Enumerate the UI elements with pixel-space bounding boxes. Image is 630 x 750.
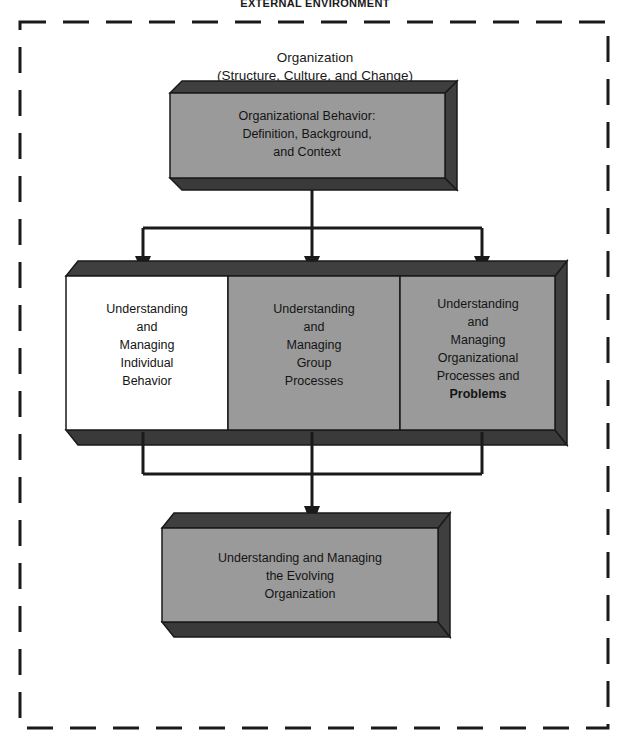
- middle-block-2-line-3: Managing: [287, 338, 342, 352]
- block-organizational-behavior: Organizational Behavior: Definition, Bac…: [170, 81, 457, 190]
- bottom-block-bottom-shadow: [162, 622, 450, 637]
- top-block-line-2: Definition, Background,: [242, 127, 371, 141]
- top-block-side-shadow: [445, 81, 457, 190]
- middle-block-3-line-6: Problems: [450, 387, 507, 401]
- bottom-block-side-shadow: [438, 513, 450, 637]
- middle-block-3-line-1: Understanding: [437, 297, 518, 311]
- middle-block-2-line-5: Processes: [285, 374, 343, 388]
- middle-block-3-line-2: and: [468, 315, 489, 329]
- middle-block-1-line-5: Behavior: [122, 374, 171, 388]
- organization-label-line1: Organization: [277, 50, 354, 65]
- middle-block-1-line-3: Managing: [120, 338, 175, 352]
- top-block-top-bevel: [170, 81, 457, 93]
- middle-block-1-line-2: and: [137, 320, 158, 334]
- middle-block-3-line-4: Organizational: [438, 351, 519, 365]
- organizational-behavior-framework-diagram: EXTERNAL ENVIRONMENT Organization (Struc…: [0, 0, 630, 750]
- middle-row-blocks: Understanding and Managing Individual Be…: [66, 261, 567, 445]
- block-organizational-processes: Understanding and Managing Organizationa…: [400, 276, 555, 430]
- top-block-line-3: and Context: [273, 145, 341, 159]
- bottom-block-line-3: Organization: [265, 587, 336, 601]
- bottom-block-top-bevel: [162, 513, 450, 528]
- bottom-block-line-1: Understanding and Managing: [218, 551, 382, 565]
- middle-block-1-face: [66, 276, 228, 430]
- middle-block-2-face: [228, 276, 400, 430]
- middle-block-2-line-2: and: [304, 320, 325, 334]
- middle-row-top-bevel: [66, 261, 567, 276]
- middle-block-2-line-1: Understanding: [273, 302, 354, 316]
- bottom-block-line-2: the Evolving: [266, 569, 334, 583]
- external-environment-title: EXTERNAL ENVIRONMENT: [240, 0, 389, 9]
- block-individual-behavior: Understanding and Managing Individual Be…: [66, 276, 228, 430]
- middle-block-3-line-3: Managing: [451, 333, 506, 347]
- middle-block-3-line-5: Processes and: [437, 369, 520, 383]
- middle-row-bottom-shadow: [66, 430, 567, 445]
- top-block-bottom-shadow: [170, 178, 457, 190]
- middle-block-1-line-1: Understanding: [106, 302, 187, 316]
- middle-block-1-line-4: Individual: [121, 356, 174, 370]
- block-group-processes: Understanding and Managing Group Process…: [228, 276, 400, 430]
- connector-top-to-middle: [143, 190, 482, 258]
- block-evolving-organization: Understanding and Managing the Evolving …: [162, 513, 450, 637]
- top-block-line-1: Organizational Behavior:: [239, 109, 376, 123]
- middle-row-side-shadow: [555, 261, 567, 445]
- middle-block-2-line-4: Group: [297, 356, 332, 370]
